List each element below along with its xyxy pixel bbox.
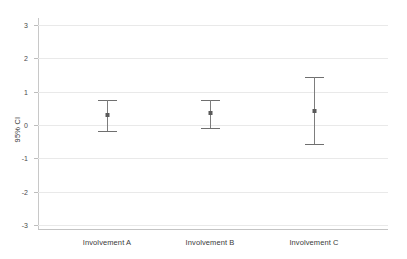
x-tick-label-involvement-a: Involvement A [83,238,131,247]
y-tick-label-1: 1 [24,89,28,96]
y-tick-label-0: 0 [24,122,28,129]
y-tick-label-3: 3 [24,22,28,29]
mean-marker [105,113,109,117]
mean-marker [208,111,212,115]
error-bar-involvement-c [305,18,324,230]
y-axis-line [38,18,39,230]
error-bar-cap-lower [201,128,220,129]
y-tick-neg3: -3 [34,225,38,226]
error-bar-chart: 95% CI 3 2 1 0 -1 -2 -3 [0,0,407,259]
mean-marker [312,109,316,113]
plot-area: 3 2 1 0 -1 -2 -3 [38,18,388,230]
error-bar-involvement-b [201,18,220,230]
x-tick-label-involvement-c: Involvement C [289,238,338,247]
y-tick-0: 0 [34,125,38,126]
y-tick-label-2: 2 [24,55,28,62]
y-tick-2: 2 [34,58,38,59]
y-tick-label-neg2: -2 [22,189,28,196]
y-tick-label-neg3: -3 [22,222,28,229]
y-tick-3: 3 [34,25,38,26]
y-tick-label-neg1: -1 [22,155,28,162]
x-tick-label-involvement-b: Involvement B [186,238,235,247]
error-bar-cap-lower [305,144,324,145]
y-tick-neg2: -2 [34,192,38,193]
y-tick-neg1: -1 [34,158,38,159]
error-bar-cap-lower [98,131,117,132]
y-tick-1: 1 [34,92,38,93]
error-bar-involvement-a [98,18,117,230]
y-axis-title: 95% CI [10,0,24,259]
